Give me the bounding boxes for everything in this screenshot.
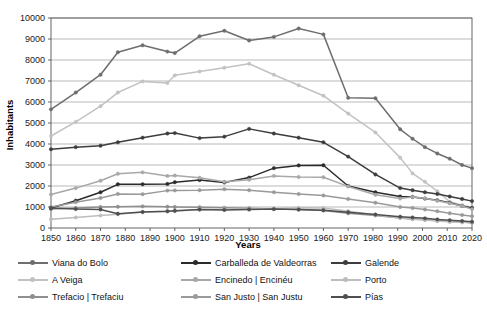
data-point	[272, 73, 275, 76]
data-point	[398, 156, 401, 159]
y-tick-label: 4000	[25, 139, 45, 149]
data-point	[398, 128, 401, 131]
data-point	[166, 132, 169, 135]
legend-item[interactable]: Encinedo | Encinéu	[181, 271, 331, 288]
data-point	[346, 197, 349, 200]
x-tick-label: 2010	[437, 233, 457, 243]
data-point	[173, 181, 176, 184]
data-point	[460, 204, 463, 207]
x-tick-label: 1940	[264, 233, 284, 243]
data-point	[116, 141, 119, 144]
x-tick-label: 1850	[41, 233, 61, 243]
data-point	[423, 196, 426, 199]
data-point	[173, 174, 176, 177]
data-point	[166, 50, 169, 53]
data-point	[74, 91, 77, 94]
data-point	[470, 199, 473, 202]
data-point	[460, 219, 463, 222]
data-point	[198, 136, 201, 139]
data-point	[374, 201, 377, 204]
data-point	[99, 208, 102, 211]
data-point	[398, 205, 401, 208]
data-point	[166, 210, 169, 213]
data-point	[173, 51, 176, 54]
data-point	[436, 210, 439, 213]
legend-marker-dot	[30, 277, 35, 282]
legend-item[interactable]: Viana do Bolo	[18, 254, 181, 271]
data-point	[411, 216, 414, 219]
data-point	[460, 197, 463, 200]
data-point	[470, 220, 473, 223]
x-tick-label: 1880	[115, 233, 135, 243]
series-san-justo-san-justu	[49, 187, 473, 217]
legend-item[interactable]: Pías	[331, 288, 473, 305]
data-point	[374, 213, 377, 216]
data-point	[322, 164, 325, 167]
legend-label: Pías	[365, 292, 383, 302]
data-point	[116, 212, 119, 215]
data-point	[436, 152, 439, 155]
data-point	[411, 172, 414, 175]
data-point	[322, 194, 325, 197]
data-point	[322, 175, 325, 178]
data-point	[322, 94, 325, 97]
legend-item[interactable]: Carballeda de Valdeorras	[181, 254, 331, 271]
legend-item[interactable]: Trefacio | Trefaciu	[18, 288, 181, 305]
x-axis-title: Years	[235, 239, 260, 250]
data-point	[198, 189, 201, 192]
legend-label: Galende	[365, 258, 399, 268]
data-point	[346, 96, 349, 99]
data-point	[297, 27, 300, 30]
data-point	[448, 157, 451, 160]
y-tick-label: 1000	[25, 202, 45, 212]
data-point	[74, 216, 77, 219]
data-point	[141, 192, 144, 195]
x-tick-label: 1980	[363, 233, 383, 243]
data-point	[398, 186, 401, 189]
series-viana-do-bolo	[49, 27, 473, 170]
data-point	[116, 183, 119, 186]
data-point	[49, 217, 52, 220]
data-series-group	[49, 27, 473, 225]
legend-item[interactable]: Galende	[331, 254, 473, 271]
data-point	[173, 74, 176, 77]
legend-label: Viana do Bolo	[52, 258, 108, 268]
data-point	[411, 195, 414, 198]
data-point	[297, 208, 300, 211]
legend-label: Porto	[365, 275, 387, 285]
x-tick-label: 1890	[140, 233, 160, 243]
data-point	[411, 189, 414, 192]
data-point	[74, 200, 77, 203]
data-point	[322, 141, 325, 144]
data-point	[49, 206, 52, 209]
data-point	[247, 189, 250, 192]
x-tick-label: 2000	[412, 233, 432, 243]
legend-item[interactable]: San Justo | San Justu	[181, 288, 331, 305]
data-point	[116, 51, 119, 54]
data-point	[198, 208, 201, 211]
legend-item[interactable]: Porto	[331, 271, 473, 288]
data-point	[74, 186, 77, 189]
data-point	[74, 120, 77, 123]
data-point	[166, 81, 169, 84]
data-point	[247, 39, 250, 42]
data-point	[166, 174, 169, 177]
legend-item[interactable]: A Veiga	[18, 271, 181, 288]
data-point	[398, 197, 401, 200]
data-point	[173, 189, 176, 192]
data-point	[116, 172, 119, 175]
population-line-chart: 0100020003000400050006000700080009000100…	[0, 0, 487, 312]
data-point	[423, 217, 426, 220]
series-line	[51, 165, 472, 208]
x-tick-label: 1990	[388, 233, 408, 243]
x-tick-label: 1950	[289, 233, 309, 243]
data-point	[141, 210, 144, 213]
data-point	[374, 97, 377, 100]
data-point	[99, 73, 102, 76]
data-point	[346, 112, 349, 115]
data-point	[346, 211, 349, 214]
data-point	[460, 163, 463, 166]
y-tick-label: 7000	[25, 76, 45, 86]
data-point	[411, 206, 414, 209]
legend-key-icon	[18, 275, 48, 284]
